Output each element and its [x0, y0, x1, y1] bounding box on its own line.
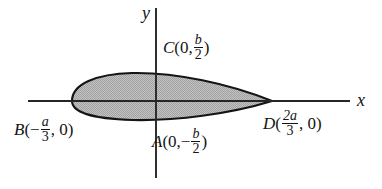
- point-a-close-paren: ): [201, 132, 207, 151]
- point-b-y-value: , 0: [51, 120, 68, 139]
- point-d-name: D: [263, 114, 275, 133]
- point-b-fraction-denominator: 3: [41, 130, 50, 144]
- point-c-x-value: 0,: [180, 38, 193, 57]
- point-c-fraction-numerator: b: [194, 33, 203, 48]
- figure-canvas: [0, 0, 382, 189]
- point-label-c: C(0,b2): [163, 34, 209, 64]
- point-c-name: C: [163, 38, 174, 57]
- point-c-close-paren: ): [204, 38, 210, 57]
- point-b-close-paren: ): [68, 120, 74, 139]
- point-a-name: A: [152, 132, 162, 151]
- point-d-close-paren: ): [316, 114, 322, 133]
- point-label-d: D(2a3, 0): [263, 110, 322, 140]
- point-c-fraction: b2: [194, 33, 203, 63]
- point-d-y-value: , 0: [299, 114, 316, 133]
- point-d-fraction-numerator: 2a: [282, 109, 298, 124]
- point-b-name: B: [14, 120, 24, 139]
- point-a-x-value: 0,: [168, 132, 181, 151]
- point-d-open-paren: (: [275, 114, 281, 133]
- point-b-fraction-numerator: a: [41, 115, 50, 130]
- point-a-fraction: b2: [191, 127, 200, 157]
- y-axis-label: y: [142, 4, 150, 22]
- point-d-fraction: 2a3: [282, 109, 298, 139]
- point-b-minus-sign: −: [30, 120, 40, 139]
- x-axis-label: x: [357, 91, 365, 109]
- shaded-region: [72, 73, 272, 120]
- point-label-b: B(−a3, 0): [14, 116, 73, 146]
- point-a-fraction-denominator: 2: [191, 142, 200, 156]
- point-a-fraction-numerator: b: [191, 127, 200, 142]
- point-d-fraction-denominator: 3: [282, 124, 298, 138]
- point-c-fraction-denominator: 2: [194, 48, 203, 62]
- point-b-fraction: a3: [41, 115, 50, 145]
- point-a-minus-sign: −: [181, 132, 191, 151]
- point-label-a: A(0,−b2): [152, 128, 207, 158]
